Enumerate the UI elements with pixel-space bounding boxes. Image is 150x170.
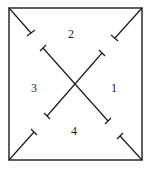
tl-corner-stub	[9, 8, 35, 36]
region-3-label: 3	[31, 82, 37, 94]
diag-main-asc	[44, 50, 105, 119]
region-2-label: 2	[68, 28, 74, 40]
tr-corner-stub	[111, 8, 142, 41]
br-corner-stub	[117, 133, 142, 160]
region-diagram	[0, 0, 150, 170]
region-4-label: 4	[71, 125, 77, 137]
region-1-label: 1	[111, 82, 117, 94]
bl-corner-stub	[9, 129, 37, 160]
